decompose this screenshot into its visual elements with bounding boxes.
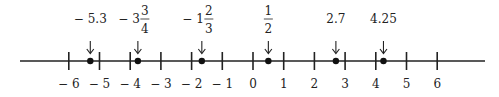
point-label-numerator: 1	[265, 4, 273, 18]
point-label: − 5.3	[74, 12, 107, 26]
tick-label: 2	[311, 77, 319, 91]
tick-label: 0	[249, 77, 257, 91]
point-marker: 4.25	[370, 12, 397, 64]
tick-label: − 2	[181, 77, 203, 91]
point-label-whole: − 1	[182, 12, 204, 26]
point-marker: 12	[264, 4, 273, 64]
point-marker: − 123	[182, 4, 213, 64]
tick-label: − 5	[89, 77, 111, 91]
tick-label: 6	[433, 77, 441, 91]
point-dot	[380, 58, 386, 64]
number-line-figure: − 6− 5− 4− 3− 2− 10123456 − 5.3− 334− 12…	[0, 0, 499, 97]
tick-label: − 1	[212, 77, 234, 91]
point-marker: 2.7	[326, 12, 345, 64]
point-dot	[265, 58, 271, 64]
point-label: 2.7	[326, 12, 345, 26]
number-line-svg: − 6− 5− 4− 3− 2− 10123456 − 5.3− 334− 12…	[0, 0, 499, 97]
point-dot	[87, 58, 93, 64]
tick-label: − 3	[150, 77, 172, 91]
point-label-denominator: 3	[205, 22, 213, 36]
point-marker: − 334	[118, 4, 149, 64]
point-label-denominator: 2	[265, 22, 273, 36]
tick-label: 1	[280, 77, 288, 91]
point-label-numerator: 3	[141, 4, 149, 18]
point-label-denominator: 4	[141, 22, 149, 36]
tick-label: − 4	[119, 77, 141, 91]
point-marker: − 5.3	[74, 12, 107, 64]
tick-label: 5	[403, 77, 411, 91]
point-dot	[135, 58, 141, 64]
point-label-whole: − 3	[118, 12, 140, 26]
point-label-numerator: 2	[205, 4, 213, 18]
tick-label: 3	[341, 77, 349, 91]
point-label: 4.25	[370, 12, 397, 26]
tick-labels: − 6− 5− 4− 3− 2− 10123456	[58, 77, 441, 91]
point-dot	[333, 58, 339, 64]
tick-label: − 6	[58, 77, 80, 91]
point-dot	[199, 58, 205, 64]
marked-points: − 5.3− 334− 123122.74.25	[74, 4, 397, 64]
tick-label: 4	[372, 77, 380, 91]
